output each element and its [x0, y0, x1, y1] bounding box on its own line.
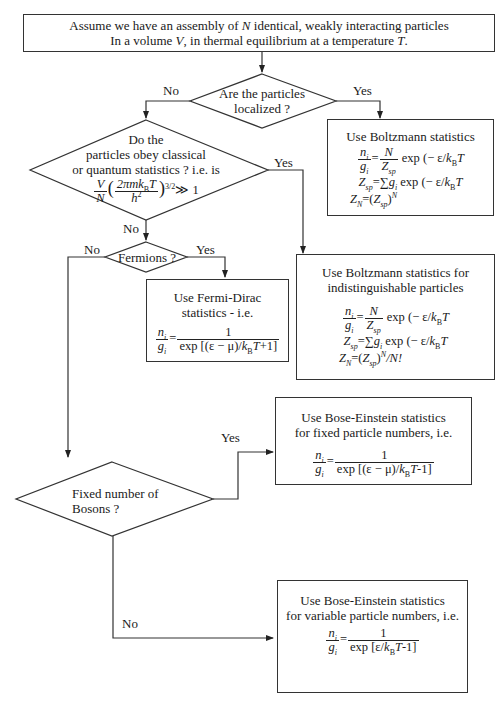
boltzmann-eq3: ZN=(Zsp)N	[328, 192, 493, 206]
fd-equation: nigi=1exp [(ε − μ)/kBT+1]	[147, 326, 288, 353]
start-line-1: Assume we have an assembly of N identica…	[24, 18, 494, 33]
label-bosons-yes: Yes	[221, 431, 240, 445]
label-classical-no: No	[123, 222, 139, 236]
label-localized-no: No	[163, 84, 179, 98]
label-localized-yes: Yes	[353, 84, 372, 98]
decision-bosons-text: Fixed number of Bosons ?	[72, 486, 159, 516]
boltzmann-title: Use Boltzmann statistics	[328, 129, 493, 144]
indist-title-1: Use Boltzmann statistics for	[297, 265, 494, 280]
box-boltzmann-localized: Use Boltzmann statistics nigi=NZsp exp (…	[327, 119, 494, 216]
box-bose-einstein-variable: Use Bose-Einstein statistics for variabl…	[277, 580, 468, 693]
bef-title-1: Use Bose-Einstein statistics	[276, 410, 471, 425]
box-boltzmann-indistinguishable: Use Boltzmann statistics for indistingui…	[296, 254, 495, 380]
box-bose-einstein-fixed: Use Bose-Einstein statistics for fixed p…	[275, 397, 472, 485]
fd-title-2: statistics - i.e.	[147, 305, 288, 320]
start-line-2: In a volume V, in thermal equilibrium at…	[24, 33, 494, 48]
boltzmann-eq1: nigi=NZsp exp (− ε/kBT	[328, 146, 493, 173]
decision-classical-text: Do the particles obey classical or quant…	[60, 132, 232, 205]
indist-eq2: Zsp=∑gi exp (− ε/kBT	[297, 334, 494, 348]
classical-criterion: VN(2πmkBTh2)3/2≫ 1	[60, 178, 232, 205]
bev-title-1: Use Bose-Einstein statistics	[278, 593, 467, 608]
indist-eq3: ZN=(Zsp)N/N!	[297, 351, 494, 365]
bev-equation: nigi=1exp [ε/kBT-1]	[278, 627, 467, 654]
bef-equation: nigi=1exp [(ε − μ)/kBT-1]	[276, 449, 471, 476]
bef-title-2: for fixed particle numbers, i.e.	[276, 425, 471, 440]
label-classical-yes: Yes	[274, 156, 293, 170]
label-bosons-no: No	[122, 617, 138, 631]
bev-title-2: for variable particle numbers, i.e.	[278, 608, 467, 623]
start-box: Assume we have an assembly of N identica…	[23, 14, 495, 52]
label-fermions-yes: Yes	[196, 243, 215, 257]
indist-title-2: indistinguishable particles	[297, 280, 494, 295]
box-fermi-dirac: Use Fermi-Dirac statistics - i.e. nigi=1…	[146, 279, 289, 362]
decision-localized-text: Are the particles localized ?	[212, 86, 312, 116]
decision-fermions-text: Fermions ?	[112, 250, 182, 265]
fd-title-1: Use Fermi-Dirac	[147, 290, 288, 305]
indist-eq1: nigi=NZsp exp (− ε/kBT	[297, 305, 494, 332]
label-fermions-no: No	[84, 243, 100, 257]
boltzmann-eq2: Zsp=∑gi exp (− ε/kBT	[328, 175, 493, 189]
